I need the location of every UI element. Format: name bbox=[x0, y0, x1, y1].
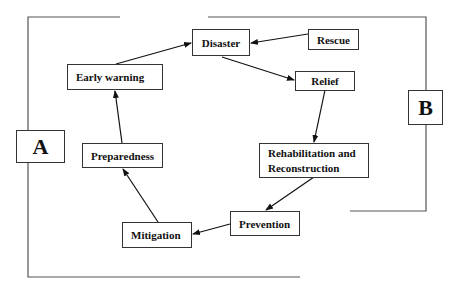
group-label-b-text: B bbox=[418, 95, 433, 121]
group-label-a: A bbox=[16, 130, 65, 163]
arrow-rescue-to-disaster bbox=[251, 34, 308, 43]
arrow-mitigation-to-preparedness bbox=[123, 169, 158, 222]
node-rehab-label-line1: Rehabilitation and bbox=[268, 146, 356, 161]
node-prevention: Prevention bbox=[230, 211, 300, 236]
node-mitigation: Mitigation bbox=[122, 222, 192, 248]
node-mitigation-label: Mitigation bbox=[131, 229, 181, 241]
node-preparedness-label: Preparedness bbox=[91, 150, 154, 162]
node-rehab-label-line2: Reconstruction bbox=[268, 161, 340, 176]
arrow-rehab-to-prevention bbox=[266, 177, 314, 210]
arrow-early-warning-to-disaster bbox=[116, 43, 191, 64]
node-early-warning-label: Early warning bbox=[76, 71, 144, 83]
arrow-disaster-to-relief bbox=[222, 57, 294, 80]
arrow-prevention-to-mitigation bbox=[193, 224, 230, 234]
node-relief: Relief bbox=[295, 71, 355, 91]
arrow-relief-to-rehab bbox=[314, 90, 325, 142]
group-label-a-text: A bbox=[33, 134, 49, 160]
disaster-cycle-diagram: Disaster Rescue Relief Rehabilitation an… bbox=[0, 0, 457, 289]
node-early-warning: Early warning bbox=[67, 64, 163, 90]
node-rescue: Rescue bbox=[308, 29, 359, 50]
node-disaster: Disaster bbox=[192, 29, 250, 56]
node-preparedness: Preparedness bbox=[82, 143, 163, 168]
arrow-preparedness-to-early-warning bbox=[115, 91, 122, 143]
node-prevention-label: Prevention bbox=[239, 218, 290, 230]
node-rehabilitation-reconstruction: Rehabilitation and Reconstruction bbox=[259, 143, 369, 178]
node-rescue-label: Rescue bbox=[317, 34, 350, 46]
group-label-b: B bbox=[408, 90, 443, 125]
node-relief-label: Relief bbox=[311, 75, 338, 87]
node-disaster-label: Disaster bbox=[202, 37, 241, 49]
